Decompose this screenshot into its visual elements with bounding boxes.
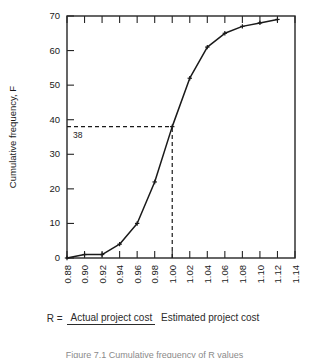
x-tick-label: 0.88 (62, 265, 73, 284)
x-tick-label: 1.00 (167, 265, 178, 284)
x-tick-label: 0.96 (132, 265, 143, 284)
x-tick-label: 0.92 (97, 265, 108, 284)
axis-definition-caption: R = Actual project cost Estimated projec… (0, 312, 309, 325)
figure-container: 010203040506070 0.880.900.920.940.960.98… (0, 0, 309, 358)
chart-annotations: 38 (73, 130, 83, 140)
x-tick-label: 0.90 (79, 265, 90, 284)
y-axis-title: Cumulative frequency, F (7, 86, 18, 188)
y-tick-label: 10 (49, 217, 60, 228)
x-tick-label: 1.12 (272, 265, 283, 284)
x-tick-label: 0.98 (149, 265, 160, 284)
plot-frame (67, 16, 295, 258)
y-tick-label: 60 (49, 45, 60, 56)
y-tick-label: 50 (49, 79, 60, 90)
x-tick-label: 1.14 (290, 265, 301, 284)
x-axis-tick-labels: 0.880.900.920.940.960.981.001.021.041.06… (62, 265, 301, 284)
y-axis-tick-labels: 010203040506070 (49, 10, 60, 263)
x-tick-label: 1.02 (184, 265, 195, 284)
x-tick-label: 0.94 (114, 265, 125, 284)
reference-lines (67, 127, 172, 258)
y-tick-label: 40 (49, 114, 60, 125)
y-tick-label: 0 (55, 252, 60, 263)
figure-caption: Figure 7.1 Cumulative frequency of R val… (0, 350, 309, 358)
caption-numerator: Actual project cost (67, 312, 155, 325)
x-tick-label: 1.06 (219, 265, 230, 284)
x-tick-label: 1.10 (255, 265, 266, 284)
y-tick-label: 30 (49, 148, 60, 159)
x-tick-label: 1.08 (237, 265, 248, 284)
caption-fraction: Actual project cost Estimated project co… (67, 312, 262, 325)
cumulative-frequency-chart: 010203040506070 0.880.900.920.940.960.98… (0, 0, 309, 312)
x-tick-label: 1.04 (202, 265, 213, 284)
y-tick-label: 70 (49, 10, 60, 21)
x-axis-ticks-top (67, 16, 295, 23)
caption-lhs: R = (47, 313, 63, 324)
y-tick-label: 20 (49, 183, 60, 194)
caption-denominator: Estimated project cost (158, 311, 262, 323)
reference-value: 38 (73, 130, 83, 140)
